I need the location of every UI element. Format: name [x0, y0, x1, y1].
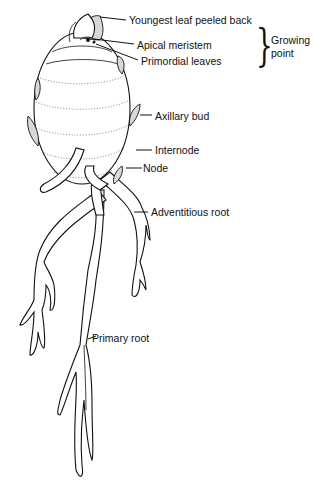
label-youngest-leaf: Youngest leaf peeled back [129, 14, 252, 26]
label-adventitious-root: Adventitious root [151, 206, 229, 218]
plant-diagram [0, 0, 321, 501]
label-growing: Growing [271, 34, 310, 46]
crown-body [34, 32, 130, 184]
roots [20, 172, 150, 476]
label-primary-root: Primary root [92, 332, 149, 344]
label-point: point [271, 47, 294, 59]
label-apical-meristem: Apical meristem [137, 39, 212, 51]
label-internode: Internode [155, 144, 199, 156]
label-axillary-bud: Axillary bud [155, 110, 209, 122]
growing-point-brace: } [256, 24, 273, 68]
adventitious-root-right-shape [100, 172, 150, 297]
label-node: Node [143, 162, 168, 174]
stem-body [34, 32, 130, 184]
label-primordial-leaves: Primordial leaves [141, 55, 222, 67]
